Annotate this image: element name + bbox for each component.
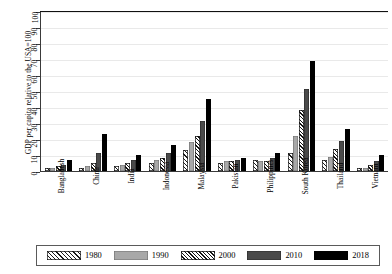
bar [45,168,50,171]
bar-group [249,12,284,171]
x-label-cell: Philippines [250,174,285,234]
bar [328,157,333,171]
legend-item[interactable]: 2018 [314,251,369,260]
x-label-cell: China [76,174,111,234]
legend-label: 2018 [352,251,369,260]
bar [67,160,72,171]
bar [275,153,280,171]
legend-swatch [181,251,215,260]
x-label-cell: South Korea [285,174,320,234]
bar [241,158,246,171]
bar [136,155,141,171]
legend-swatch [47,251,81,260]
legend-item[interactable]: 2010 [247,251,302,260]
y-tick-label: 100 [31,12,39,23]
bar [218,163,223,171]
legend-label: 1980 [85,251,102,260]
bar [288,153,293,171]
x-axis-label: South Korea [302,157,309,194]
bar [345,129,350,171]
x-label-cell: Pakistan [215,174,250,234]
bar-group [110,12,145,171]
legend-item[interactable]: 1990 [114,251,169,260]
legend-label: 2000 [219,251,236,260]
legend-swatch [247,251,281,260]
x-axis-label: Pakistan [232,163,239,188]
y-tick-label: 80 [31,44,39,52]
bar [293,136,298,171]
bar-group [145,12,180,171]
legend-label: 2010 [285,251,302,260]
x-axis-label: India [128,168,135,183]
y-tick-label: 10 [31,156,39,164]
bar [79,168,84,171]
bar [224,161,229,171]
x-label-cell: Bangladesh [41,174,76,234]
bar [171,145,176,171]
bar [154,160,159,171]
legend-item[interactable]: 1980 [47,251,102,260]
plot-area: 0102030405060708090100 [40,12,388,172]
x-axis-label: Vietnam [372,163,379,188]
bar [149,163,154,171]
y-tick-label: 90 [31,28,39,36]
y-tick-label: 70 [31,60,39,68]
bar [183,150,188,171]
legend-label: 1990 [152,251,169,260]
legend-item[interactable]: 2000 [181,251,236,260]
bar-chart: GDP per capita relative to the USA=100 0… [0,0,392,274]
bar [120,165,125,171]
x-axis-label: Indonesia [163,162,170,191]
y-tick-label: 20 [31,140,39,148]
legend-swatch [114,251,148,260]
y-tick-label: 40 [31,108,39,116]
x-label-cell: Vietnam [354,174,389,234]
x-axis-labels: BangladeshChinaIndiaIndonesiaMalaysiaPak… [41,174,389,234]
x-axis-label: Bangladesh [58,159,65,193]
bar [102,134,107,171]
bar [310,61,315,171]
bar [253,160,258,171]
bar-group [215,12,250,171]
bar [50,168,55,171]
bar [379,155,384,171]
bar-group [353,12,388,171]
x-axis-label: China [93,167,100,185]
y-tick-label: 60 [31,76,39,84]
bar [363,168,368,171]
bar [114,166,119,171]
bar [206,99,211,171]
y-tick-label: 0 [31,172,39,176]
bar-groups [41,12,388,171]
x-label-cell: Thailand [319,174,354,234]
x-axis-label: Philippines [267,159,274,192]
x-axis-label: Malaysia [198,162,205,189]
x-axis-label: Thailand [337,163,344,189]
bar [189,142,194,171]
bar-group [76,12,111,171]
x-label-cell: India [111,174,146,234]
bar-group [180,12,215,171]
bar [85,166,90,171]
bar [357,168,362,171]
bar-group [319,12,354,171]
y-tick-label: 50 [31,92,39,100]
x-label-cell: Indonesia [145,174,180,234]
legend-swatch [314,251,348,260]
x-label-cell: Malaysia [180,174,215,234]
y-tick-label: 30 [31,124,39,132]
bar [322,160,327,171]
chart-legend: 19801990200020102018 [36,245,380,266]
bar-group [41,12,76,171]
bar-group [284,12,319,171]
bar [258,161,263,171]
